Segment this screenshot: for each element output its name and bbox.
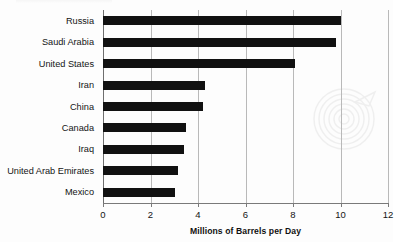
x-tick-label: 2 <box>136 209 166 220</box>
plot-area <box>103 10 388 203</box>
x-tick-label: 4 <box>183 209 213 220</box>
category-label: China <box>0 102 94 112</box>
x-tick-label: 8 <box>278 209 308 220</box>
category-label: Mexico <box>0 187 94 197</box>
category-label: Saudi Arabia <box>0 37 94 47</box>
tick-mark-0 <box>103 203 104 207</box>
bar <box>103 102 203 111</box>
bar <box>103 59 295 68</box>
bar <box>103 16 341 25</box>
category-label: United States <box>0 59 94 69</box>
clipped-title-artifact <box>16 0 112 4</box>
x-tick-label: 6 <box>231 209 261 220</box>
x-tick-label: 0 <box>88 209 118 220</box>
gridline-12 <box>388 10 389 203</box>
category-label: Russia <box>0 16 94 26</box>
bar <box>103 123 186 132</box>
tick-mark-4 <box>198 203 199 207</box>
bar <box>103 145 184 154</box>
bar <box>103 38 336 47</box>
x-tick-label: 10 <box>326 209 356 220</box>
category-label: Iraq <box>0 144 94 154</box>
category-axis-labels: RussiaSaudi ArabiaUnited StatesIranChina… <box>0 10 98 203</box>
gridline-10 <box>341 10 342 203</box>
category-label: Iran <box>0 80 94 90</box>
category-label: Canada <box>0 123 94 133</box>
bar <box>103 166 178 175</box>
category-label: United Arab Emirates <box>0 166 94 176</box>
x-axis-title: Millions of Barrels per Day <box>103 226 388 236</box>
tick-mark-12 <box>388 203 389 207</box>
bar <box>103 188 175 197</box>
bar <box>103 81 205 90</box>
tick-mark-2 <box>151 203 152 207</box>
tick-mark-6 <box>246 203 247 207</box>
concentric-spiral-watermark <box>303 84 385 154</box>
tick-mark-10 <box>341 203 342 207</box>
x-tick-label: 12 <box>373 209 398 220</box>
tick-mark-8 <box>293 203 294 207</box>
